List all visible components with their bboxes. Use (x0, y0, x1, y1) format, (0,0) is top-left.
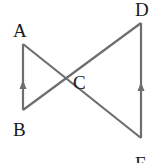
label-a: A (13, 20, 27, 41)
label-c: C (73, 72, 86, 93)
label-d: D (135, 0, 149, 20)
label-b: B (13, 119, 26, 140)
geometry-diagram: A B C D E (0, 0, 151, 163)
parallel-arrow-icon-de (138, 82, 145, 91)
label-e: E (135, 153, 147, 163)
segment-bd (23, 23, 141, 110)
parallel-arrow-icon-ab (20, 80, 27, 89)
